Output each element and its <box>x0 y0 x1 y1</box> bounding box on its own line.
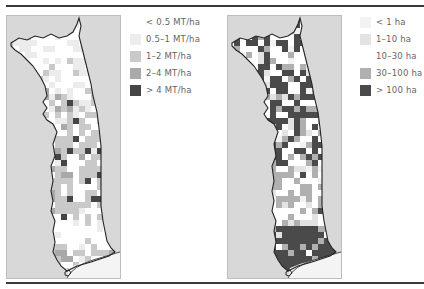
legend-swatch <box>360 17 371 28</box>
legend-label: < 0.5 MT/ha <box>146 16 200 28</box>
yield-legend: < 0.5 MT/ha 0.5–1 MT/ha 1–2 MT/ha 2–4 MT… <box>130 14 210 99</box>
legend-row: > 4 MT/ha <box>130 82 210 99</box>
legend-label: 10–30 ha <box>376 50 417 62</box>
legend-label: 1–2 MT/ha <box>146 50 192 62</box>
top-rule <box>6 5 424 7</box>
bottom-rule <box>6 282 424 284</box>
legend-label: > 4 MT/ha <box>146 84 192 96</box>
legend-label: < 1 ha <box>376 16 406 28</box>
area-legend: < 1 ha 1–10 ha 10–30 ha 30–100 ha > 100 … <box>360 14 424 99</box>
legend-swatch <box>360 51 371 62</box>
legend-label: 0.5–1 MT/ha <box>146 33 200 45</box>
legend-row: 1–2 MT/ha <box>130 48 210 65</box>
area-map-graphic <box>228 16 341 278</box>
legend-row: 1–10 ha <box>360 31 424 48</box>
legend-row: 2–4 MT/ha <box>130 65 210 82</box>
legend-label: 1–10 ha <box>376 33 411 45</box>
legend-label: > 100 ha <box>376 84 417 96</box>
yield-map-graphic <box>7 16 120 278</box>
legend-row: 0.5–1 MT/ha <box>130 31 210 48</box>
area-map <box>227 15 342 279</box>
yield-map <box>6 15 121 279</box>
legend-swatch <box>130 51 141 62</box>
legend-row: < 0.5 MT/ha <box>130 14 210 31</box>
legend-swatch <box>360 34 371 45</box>
legend-label: 30–100 ha <box>376 67 422 79</box>
legend-swatch <box>360 68 371 79</box>
legend-swatch <box>360 85 371 96</box>
legend-label: 2–4 MT/ha <box>146 67 192 79</box>
legend-swatch <box>130 34 141 45</box>
legend-swatch <box>130 85 141 96</box>
legend-swatch <box>130 68 141 79</box>
legend-row: 30–100 ha <box>360 65 424 82</box>
legend-swatch <box>130 17 141 28</box>
legend-row: 10–30 ha <box>360 48 424 65</box>
legend-row: > 100 ha <box>360 82 424 99</box>
legend-row: < 1 ha <box>360 14 424 31</box>
